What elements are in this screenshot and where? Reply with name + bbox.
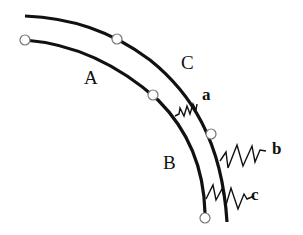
label-spring-b: b [272, 140, 281, 157]
node-outer-2 [206, 129, 216, 139]
node-inner-mid [148, 90, 158, 100]
node-inner-end [200, 213, 210, 223]
inner-curve [25, 40, 205, 213]
node-outer-1 [112, 34, 122, 44]
label-region-c: C [181, 53, 194, 72]
label-spring-c: c [251, 186, 259, 203]
label-region-b: B [163, 153, 176, 172]
spring-c [206, 185, 254, 209]
label-spring-a: a [202, 86, 211, 103]
diagram-canvas: A B C a b c [0, 0, 303, 235]
node-inner-start [20, 35, 30, 45]
outer-curve [25, 16, 227, 222]
spring-b [220, 145, 266, 168]
label-region-a: A [84, 68, 98, 87]
